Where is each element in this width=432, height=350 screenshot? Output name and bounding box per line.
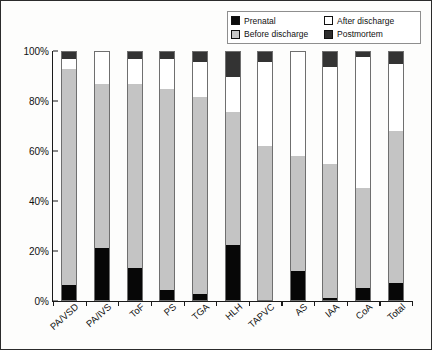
bar-segment-before-discharge (62, 69, 76, 285)
bar-segment-before-discharge (389, 131, 403, 282)
bar-segment-after-discharge (193, 62, 207, 97)
legend-item-postmortem: Postmortem (324, 30, 417, 39)
bar-segment-postmortem (323, 52, 337, 67)
chart-figure: Prenatal After discharge Before discharg… (0, 0, 432, 350)
bar-segment-after-discharge (323, 67, 337, 164)
x-axis-tick-label-text: AS (292, 301, 309, 318)
legend-swatch-prenatal (231, 16, 240, 25)
bar-segment-before-discharge (160, 89, 174, 290)
legend-item-after-discharge: After discharge (324, 16, 417, 25)
bar-segment-postmortem (193, 52, 207, 62)
bar-segment-postmortem (160, 52, 174, 59)
bar-segment-after-discharge (128, 59, 142, 84)
y-axis-tick-mark (53, 100, 58, 101)
y-axis-tick-label: 60% (29, 146, 53, 157)
bar-tapvc[interactable] (257, 51, 273, 301)
bar-iaa[interactable] (322, 51, 338, 301)
bar-segment-before-discharge (291, 156, 305, 271)
bar-as[interactable] (290, 51, 306, 301)
y-axis-tick: 80% (29, 96, 53, 107)
x-axis-tick-label-text: TGA (189, 301, 211, 322)
bar-segment-postmortem (226, 52, 240, 77)
y-axis-tick-mark (53, 50, 58, 51)
bar-segment-before-discharge (95, 84, 109, 248)
y-axis-tick: 100% (23, 46, 53, 57)
bar-segment-after-discharge (291, 52, 305, 156)
y-axis-tick-label: 20% (29, 246, 53, 257)
bar-segment-before-discharge (226, 112, 240, 246)
y-axis-tick-mark (53, 150, 58, 151)
y-axis-tick: 0% (35, 296, 53, 307)
x-axis-tick-label-text: IAA (323, 301, 342, 319)
legend-label-postmortem: Postmortem (337, 30, 383, 39)
bar-hlh[interactable] (225, 51, 241, 301)
legend-item-prenatal: Prenatal (231, 16, 324, 25)
legend-item-before-discharge: Before discharge (231, 30, 324, 39)
y-axis-tick-mark (53, 250, 58, 251)
bar-segment-after-discharge (160, 59, 174, 89)
bar-segment-after-discharge (356, 57, 370, 188)
bar-segment-prenatal (356, 288, 370, 300)
bar-segment-prenatal (226, 245, 240, 300)
x-axis-tick-mark (53, 301, 54, 306)
legend-swatch-before-discharge (231, 30, 240, 39)
y-axis-tick: 60% (29, 146, 53, 157)
bar-pa-ivs[interactable] (94, 51, 110, 301)
y-axis-tick-label: 0% (35, 296, 53, 307)
legend-label-before-discharge: Before discharge (244, 30, 308, 39)
x-axis-tick-label-text: ToF (127, 301, 146, 320)
bar-segment-after-discharge (95, 52, 109, 84)
legend-label-after-discharge: After discharge (337, 17, 394, 26)
bar-segment-after-discharge (226, 77, 240, 112)
legend-swatch-postmortem (324, 30, 333, 39)
y-axis-tick-mark (53, 200, 58, 201)
bar-segment-after-discharge (62, 59, 76, 69)
bar-segment-postmortem (128, 52, 142, 59)
bar-segment-postmortem (62, 52, 76, 59)
bar-segment-postmortem (258, 52, 272, 62)
bar-segment-prenatal (389, 283, 403, 300)
bar-pa-vsd[interactable] (61, 51, 77, 301)
bar-ps[interactable] (159, 51, 175, 301)
legend-swatch-after-discharge (324, 16, 333, 25)
bar-segment-postmortem (389, 52, 403, 64)
bar-segment-prenatal (62, 285, 76, 300)
bar-segment-before-discharge (323, 164, 337, 298)
x-axis-tick-label-text: PS (162, 301, 179, 318)
y-axis-tick-label: 40% (29, 196, 53, 207)
bar-segment-before-discharge (193, 97, 207, 294)
bar-segment-after-discharge (258, 62, 272, 146)
x-axis-tick-label-text: Total (385, 301, 407, 323)
bar-total[interactable] (388, 51, 404, 301)
x-axis-tick-label-text: TAPVC (246, 301, 276, 330)
y-axis-tick: 20% (29, 246, 53, 257)
bar-segment-before-discharge (258, 146, 272, 300)
x-axis-tick-label-text: PA/IVS (84, 301, 114, 329)
plot-area: 0%20%40%60%80%100% PA/VSDPA/IVSToFPSTGAH… (52, 51, 412, 302)
bar-tof[interactable] (127, 51, 143, 301)
x-axis-tick-label-text: HLH (222, 301, 243, 322)
bar-segment-after-discharge (389, 64, 403, 131)
y-axis-tick-label: 100% (23, 46, 53, 57)
bar-segment-before-discharge (128, 84, 142, 268)
y-axis-tick: 40% (29, 196, 53, 207)
chart-legend: Prenatal After discharge Before discharg… (227, 11, 421, 44)
bar-tga[interactable] (192, 51, 208, 301)
bar-segment-before-discharge (356, 188, 370, 287)
bar-coa[interactable] (355, 51, 371, 301)
y-axis-tick-label: 80% (29, 96, 53, 107)
legend-label-prenatal: Prenatal (244, 17, 276, 26)
x-axis-tick-label-text: CoA (353, 301, 374, 322)
